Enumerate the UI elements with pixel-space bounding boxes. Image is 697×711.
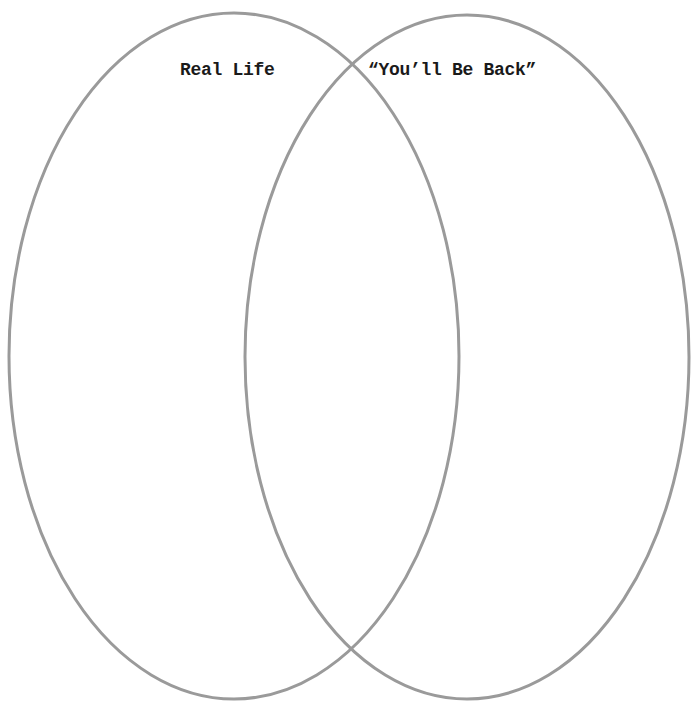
set-label-youll-be-back: “You’ll Be Back” <box>368 61 536 79</box>
venn-svg <box>0 0 697 711</box>
set-ellipse-youll-be-back <box>245 15 689 699</box>
venn-diagram: Real Life “You’ll Be Back” <box>0 0 697 711</box>
set-label-real-life: Real Life <box>180 61 275 79</box>
set-ellipse-real-life <box>9 13 459 699</box>
